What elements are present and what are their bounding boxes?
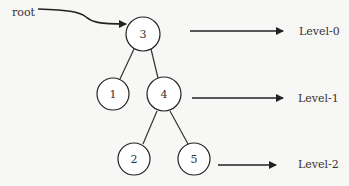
level-2-label: Level-2 [298, 158, 339, 171]
level-1-label: Level-1 [298, 92, 339, 105]
node-value: 5 [191, 153, 198, 166]
tree-node-4: 4 [147, 77, 181, 111]
edge-3-1 [120, 49, 134, 79]
tree-node-3: 3 [126, 17, 160, 51]
level-0-label: Level-0 [299, 25, 340, 38]
node-value: 2 [131, 153, 138, 166]
node-value: 4 [161, 88, 168, 101]
node-value: 1 [110, 88, 117, 101]
edge-4-5 [170, 111, 188, 144]
root-pointer-arrow [38, 9, 126, 24]
edge-4-2 [143, 111, 157, 144]
binary-tree-diagram: root 3 1 4 2 5 Level-0 Level-1 Level-2 [0, 0, 349, 186]
tree-node-2: 2 [118, 143, 150, 175]
tree-node-5: 5 [178, 143, 210, 175]
edge-3-4 [151, 49, 158, 78]
tree-node-1: 1 [97, 78, 129, 110]
root-label: root [12, 6, 36, 19]
node-value: 3 [140, 28, 147, 41]
